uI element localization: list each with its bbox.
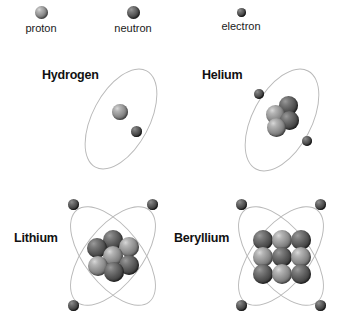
atomic-structure-diagram: proton neutron electron Hydrogen Helium xyxy=(0,0,346,327)
nucleus-neutron xyxy=(253,264,273,284)
electron-2 xyxy=(302,136,312,146)
orbit-stage-lithium xyxy=(58,194,170,319)
electron-icon xyxy=(237,8,246,17)
atom-diagram-lithium: Lithium xyxy=(0,186,175,327)
electron-1 xyxy=(254,89,264,99)
atom-label-lithium: Lithium xyxy=(14,231,58,245)
proton-icon xyxy=(35,6,48,19)
legend-item-electron: electron xyxy=(205,6,277,33)
atom-label-beryllium: Beryllium xyxy=(174,231,229,245)
electron-1 xyxy=(131,126,142,137)
legend-label-proton: proton xyxy=(6,22,76,35)
nucleus-proton xyxy=(112,104,128,120)
electron-1 xyxy=(68,199,79,210)
orbit-stage-helium xyxy=(234,60,334,178)
atom-diagram-helium: Helium xyxy=(172,58,346,180)
nucleus-proton xyxy=(272,264,292,284)
electron-4 xyxy=(315,300,326,311)
nucleus-proton xyxy=(267,118,286,137)
nucleus-helium xyxy=(264,96,310,140)
orbit-stage-beryllium xyxy=(226,194,338,319)
orbit-stage-hydrogen xyxy=(76,60,166,178)
legend-item-neutron: neutron xyxy=(96,6,170,35)
nucleus-beryllium xyxy=(253,230,311,284)
neutron-icon xyxy=(127,6,140,19)
atom-diagram-beryllium: Beryllium xyxy=(172,186,346,327)
electron-3 xyxy=(68,300,79,311)
legend-label-neutron: neutron xyxy=(96,22,170,35)
electron-2 xyxy=(315,199,326,210)
electron-2 xyxy=(147,199,158,210)
particle-legend: proton neutron electron xyxy=(0,0,346,56)
legend-item-proton: proton xyxy=(6,6,76,35)
electron-3 xyxy=(236,300,247,311)
atom-diagram-hydrogen: Hydrogen xyxy=(0,58,175,180)
electron-1 xyxy=(236,199,247,210)
nucleus-neutron xyxy=(291,264,311,284)
legend-label-electron: electron xyxy=(205,20,277,33)
nucleus-lithium xyxy=(87,230,141,282)
nucleus-neutron xyxy=(104,262,124,282)
